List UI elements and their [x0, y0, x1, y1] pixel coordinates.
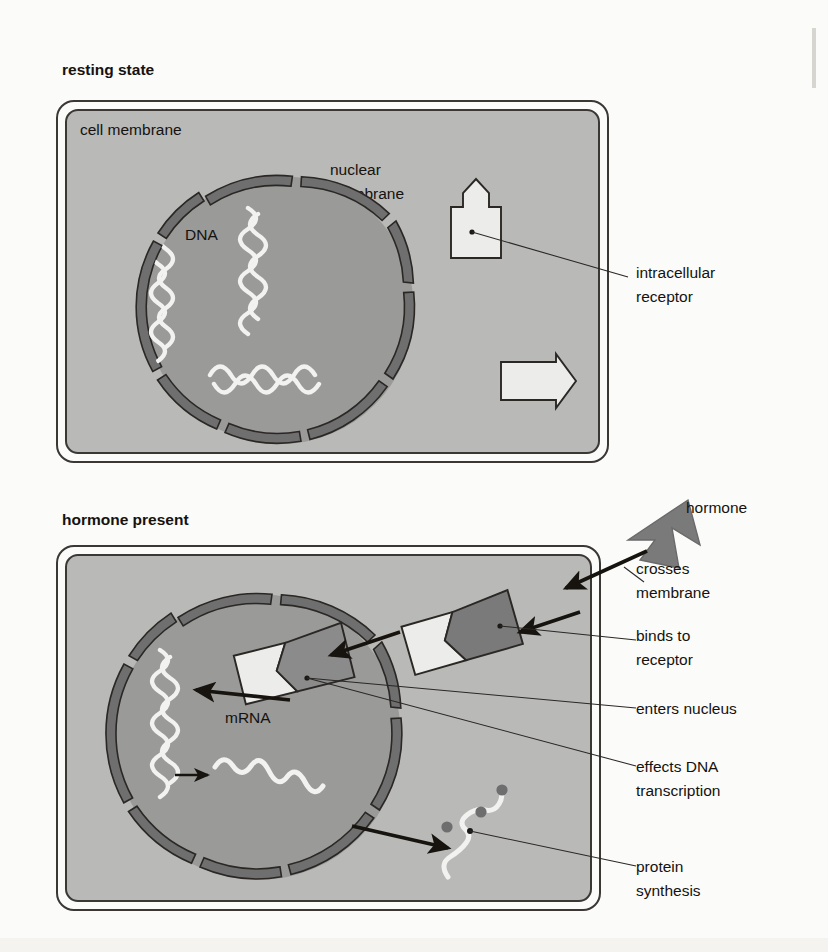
hormone-receptor-diagram: resting state cell membrane nuclear memb…: [0, 0, 828, 952]
label-mrna: mRNA: [225, 709, 271, 726]
label-cell-membrane: cell membrane: [80, 121, 182, 138]
figure-canvas: resting state cell membrane nuclear memb…: [0, 0, 828, 952]
side-label-effects-1: effects DNA: [636, 758, 719, 775]
label-nuclear-membrane-1: nuclear: [330, 161, 381, 178]
panel-title-resting: resting state: [62, 61, 155, 78]
side-label-binds-1: binds to: [636, 627, 690, 644]
page-edge-mark: [812, 28, 816, 88]
side-label-hormone: hormone: [686, 499, 747, 516]
side-label-crosses-1: crosses: [636, 560, 690, 577]
side-label-protein-2: synthesis: [636, 882, 701, 899]
side-label-crosses-2: membrane: [636, 584, 710, 601]
side-label-intracellular-receptor-1: intracellular: [636, 264, 715, 281]
page-bottom-margin: [0, 938, 828, 952]
side-label-intracellular-receptor-2: receptor: [636, 288, 693, 305]
side-label-effects-2: transcription: [636, 782, 720, 799]
ribosome-1: [441, 821, 452, 832]
panel-title-hormone: hormone present: [62, 511, 189, 528]
side-label-enters-nucleus: enters nucleus: [636, 700, 737, 717]
side-label-protein-1: protein: [636, 858, 683, 875]
side-label-binds-2: receptor: [636, 651, 693, 668]
label-dna: DNA: [185, 226, 218, 243]
ribosome-3: [496, 784, 507, 795]
ribosome-2: [475, 806, 486, 817]
